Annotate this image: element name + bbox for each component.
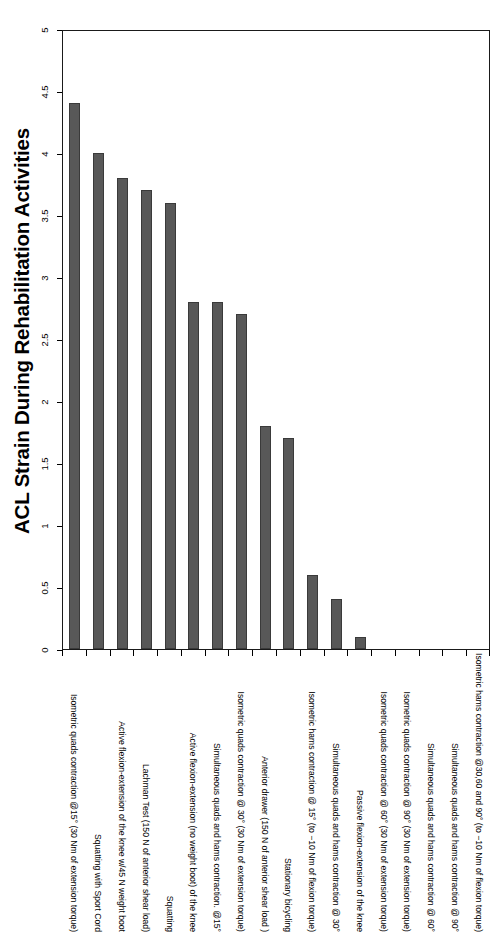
x-category-label: Isometric hams contraction @ 15° (to −10…: [305, 658, 318, 932]
bar: [260, 426, 271, 649]
y-tick-label: 3: [32, 272, 58, 284]
x-tick-mark: [181, 650, 182, 656]
bar: [331, 599, 342, 649]
x-category-label: Stationary bicycling: [281, 658, 294, 932]
x-tick-mark: [276, 650, 277, 656]
y-tick-label-text: 0.5: [39, 581, 51, 594]
x-category-label: Squatting with Sport Cord: [91, 658, 104, 932]
bars-container: [63, 31, 489, 649]
x-category-label: Simultaneous quads and hams contraction …: [424, 658, 437, 932]
y-tick-label: 4.5: [32, 86, 58, 98]
x-tick-mark: [395, 650, 396, 656]
x-tick-mark: [62, 650, 63, 656]
y-tick-label: 1: [32, 520, 58, 532]
x-category-label: Simultaneous quads and hams contraction …: [329, 658, 342, 932]
y-tick-label: 2: [32, 396, 58, 408]
x-category-label-text: Isometric quads contraction @ 90° (30 Nm…: [402, 692, 412, 932]
x-tick-mark: [300, 650, 301, 656]
x-category-label-text: Simultaneous quads and hams contraction.…: [212, 743, 222, 932]
x-tick-mark: [133, 650, 134, 656]
x-category-label-text: Squatting: [165, 896, 175, 932]
y-tick-label-text: 1.5: [39, 457, 51, 470]
bar: [93, 153, 104, 649]
x-category-label: Simultaneous quads and hams contraction.…: [210, 658, 223, 932]
x-category-label: Isometric hams contraction @30,60 and 90…: [472, 658, 485, 932]
bar: [236, 314, 247, 649]
x-category-label-text: Isometric hams contraction @30,60 and 90…: [474, 653, 484, 932]
x-tick-mark: [347, 650, 348, 656]
x-category-label-text: Isometric quads contraction @ 30° (30 Nm…: [236, 692, 246, 932]
y-tick-label: 4: [32, 148, 58, 160]
x-category-label: Isometric quads contraction @ 30° (30 Nm…: [234, 658, 247, 932]
x-category-label-text: Active flexion-extension (no weight boot…: [188, 733, 198, 932]
x-category-label-text: Passive flexion-extension of the knee: [355, 790, 365, 932]
y-tick-label: 0: [32, 644, 58, 656]
x-tick-mark: [442, 650, 443, 656]
y-tick-label-text: 3.5: [39, 209, 51, 222]
y-tick-label: 1.5: [32, 458, 58, 470]
y-tick-label: 5: [32, 24, 58, 36]
bar: [188, 302, 199, 649]
x-tick-mark: [228, 650, 229, 656]
x-category-label: Isometric quads contraction @ 90° (30 Nm…: [400, 658, 413, 932]
x-category-label: Passive flexion-extension of the knee: [353, 658, 366, 932]
x-axis-labels: Isometric quads contraction @15° (30 Nm …: [62, 658, 490, 932]
x-category-label-text: Active flexion-extension of the knee w/4…: [117, 721, 127, 932]
x-tick-mark: [110, 650, 111, 656]
x-category-label: Lachman Test (150 N of anterior shear lo…: [139, 658, 152, 932]
plot-area: [62, 30, 490, 650]
y-tick-label: 2.5: [32, 334, 58, 346]
y-tick-label: 3.5: [32, 210, 58, 222]
x-tick-mark: [466, 650, 467, 656]
x-category-label-text: Simultaneous quads and hams contraction …: [426, 743, 436, 932]
x-category-label-text: Simultaneous quads and hams contraction …: [450, 743, 460, 932]
y-tick-label-text: 2.5: [39, 333, 51, 346]
x-category-label-text: Isometric quads contraction @15° (30 Nm …: [69, 694, 79, 932]
y-axis-labels: 00.511.522.533.544.55: [30, 24, 58, 650]
y-tick-label: 0.5: [32, 582, 58, 594]
x-category-label: Isometric quads contraction @ 60° (30 Nm…: [377, 658, 390, 932]
y-tick-label-text: 2: [39, 399, 51, 404]
x-axis-ticks: [62, 650, 490, 656]
y-tick-label-text: 0: [39, 647, 51, 652]
x-category-label: Active flexion-extension (no weight boot…: [186, 658, 199, 932]
bar: [283, 438, 294, 649]
x-category-label-text: Simultaneous quads and hams contraction …: [331, 743, 341, 932]
x-tick-mark: [324, 650, 325, 656]
bar: [69, 103, 80, 649]
chart-figure: ACL Strain During Rehabilitation Activit…: [0, 0, 496, 932]
x-tick-mark: [86, 650, 87, 656]
x-tick-mark: [252, 650, 253, 656]
x-category-label-text: Isometric hams contraction @ 15° (to −10…: [307, 691, 317, 932]
x-tick-mark: [489, 650, 490, 656]
y-tick-label-text: 3: [39, 275, 51, 280]
bar: [212, 302, 223, 649]
y-tick-label-text: 4.5: [39, 85, 51, 98]
bar: [307, 575, 318, 649]
x-category-label-text: Squatting with Sport Cord: [93, 834, 103, 932]
x-category-label: Anterior drawer (150 N of anterior shear…: [258, 658, 271, 932]
bar: [117, 178, 128, 649]
x-category-label: Squatting: [163, 658, 176, 932]
y-tick-label-text: 1: [39, 523, 51, 528]
x-tick-mark: [371, 650, 372, 656]
x-category-label: Isometric quads contraction @15° (30 Nm …: [67, 658, 80, 932]
x-tick-mark: [157, 650, 158, 656]
bar: [355, 637, 366, 649]
x-tick-mark: [419, 650, 420, 656]
x-tick-mark: [205, 650, 206, 656]
x-category-label-text: Stationary bicycling: [283, 858, 293, 932]
y-tick-label-text: 5: [39, 27, 51, 32]
x-category-label-text: Lachman Test (150 N of anterior shear lo…: [141, 764, 151, 932]
x-category-label-text: Anterior drawer (150 N of anterior shear…: [260, 756, 270, 932]
x-category-label: Active flexion-extension of the knee w/4…: [115, 658, 128, 932]
y-tick-label-text: 4: [39, 151, 51, 156]
bar: [141, 190, 152, 649]
x-category-label-text: Isometric quads contraction @ 60° (30 Nm…: [379, 692, 389, 932]
x-category-label: Simultaneous quads and hams contraction …: [448, 658, 461, 932]
bar: [165, 203, 176, 649]
